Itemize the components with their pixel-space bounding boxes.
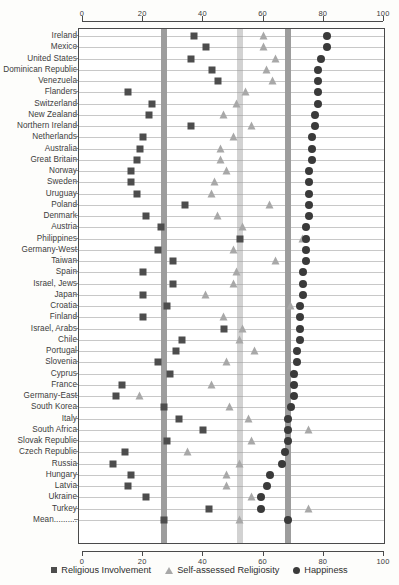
gridline — [79, 261, 384, 262]
data-point-self-assessed-religiosity — [220, 313, 228, 321]
legend-item[interactable]: Happiness — [293, 565, 347, 575]
category-label-philippines: Philippines — [37, 233, 77, 242]
gridline — [79, 227, 384, 228]
data-point-happiness — [311, 122, 319, 130]
data-point-religious-involvement — [134, 190, 141, 197]
data-point-self-assessed-religiosity — [223, 167, 231, 175]
data-point-religious-involvement — [125, 483, 132, 490]
axis-tick-label: 100 — [376, 9, 389, 18]
category-tick — [74, 384, 78, 385]
data-point-religious-involvement — [128, 471, 135, 478]
data-point-self-assessed-religiosity — [259, 43, 267, 51]
data-point-happiness — [278, 460, 286, 468]
category-tick — [74, 463, 78, 464]
data-point-religious-involvement — [164, 303, 171, 310]
data-point-self-assessed-religiosity — [235, 335, 243, 343]
gridline — [79, 171, 384, 172]
plot-area — [78, 28, 385, 544]
data-point-self-assessed-religiosity — [223, 482, 231, 490]
data-point-self-assessed-religiosity — [232, 268, 240, 276]
axis-tick — [323, 551, 324, 556]
data-point-happiness — [302, 246, 310, 254]
data-point-religious-involvement — [122, 449, 129, 456]
category-label-czech-republic: Czech Republic — [19, 447, 77, 456]
category-tick — [74, 226, 78, 227]
data-point-religious-involvement — [167, 370, 174, 377]
gridline — [79, 509, 384, 510]
data-point-self-assessed-religiosity — [262, 65, 270, 73]
category-tick — [74, 474, 78, 475]
category-label-croatia: Croatia — [50, 301, 77, 310]
category-tick — [74, 69, 78, 70]
category-label-switzerland: Switzerland — [34, 98, 77, 107]
gridline — [79, 239, 384, 240]
chart-root: 020406080100 IrelandMexicoUnited StatesD… — [0, 0, 399, 585]
data-point-religious-involvement — [128, 168, 135, 175]
data-point-religious-involvement — [140, 314, 147, 321]
category-tick — [74, 451, 78, 452]
data-point-happiness — [284, 415, 292, 423]
category-tick — [74, 316, 78, 317]
gridline — [79, 81, 384, 82]
data-point-self-assessed-religiosity — [235, 459, 243, 467]
data-point-religious-involvement — [221, 325, 228, 332]
gridline — [79, 126, 384, 127]
category-tick — [74, 485, 78, 486]
data-point-self-assessed-religiosity — [184, 448, 192, 456]
gridline — [79, 329, 384, 330]
legend-label: Happiness — [304, 565, 347, 575]
data-point-religious-involvement — [170, 280, 177, 287]
category-label-ukraine: Ukraine — [48, 492, 77, 501]
data-point-self-assessed-religiosity — [235, 516, 243, 524]
category-tick — [74, 215, 78, 216]
category-tick — [74, 181, 78, 182]
data-point-happiness — [314, 100, 322, 108]
category-tick — [74, 361, 78, 362]
data-point-religious-involvement — [110, 460, 117, 467]
data-point-happiness — [257, 505, 265, 513]
category-label-germany-east: Germany-East — [24, 391, 77, 400]
category-tick — [74, 395, 78, 396]
data-point-religious-involvement — [140, 291, 147, 298]
axis-line — [82, 21, 383, 22]
category-label-mean: Mean.......... — [33, 515, 77, 524]
data-point-self-assessed-religiosity — [247, 493, 255, 501]
category-tick — [74, 35, 78, 36]
data-point-self-assessed-religiosity — [304, 504, 312, 512]
legend-label: Self-assessed Religiosity — [177, 565, 279, 575]
data-point-religious-involvement — [146, 111, 153, 118]
legend-item[interactable]: Religious Involvement — [51, 565, 151, 575]
data-point-self-assessed-religiosity — [244, 414, 252, 422]
axis-tick — [142, 551, 143, 556]
data-point-happiness — [257, 493, 265, 501]
circle-marker-icon — [293, 567, 300, 574]
data-point-happiness — [290, 381, 298, 389]
data-point-religious-involvement — [161, 404, 168, 411]
data-point-happiness — [302, 223, 310, 231]
category-label-united-states: United States — [27, 53, 77, 62]
data-point-religious-involvement — [182, 201, 189, 208]
data-point-happiness — [305, 212, 313, 220]
gridline — [79, 149, 384, 150]
data-point-happiness — [308, 145, 316, 153]
data-point-happiness — [305, 190, 313, 198]
category-label-great-britain: Great Britain — [30, 154, 77, 163]
legend-item[interactable]: Self-assessed Religiosity — [165, 565, 279, 575]
data-point-self-assessed-religiosity — [223, 470, 231, 478]
category-tick — [74, 46, 78, 47]
data-point-self-assessed-religiosity — [226, 403, 234, 411]
data-point-self-assessed-religiosity — [304, 425, 312, 433]
data-point-religious-involvement — [155, 359, 162, 366]
gridline — [79, 59, 384, 60]
data-point-religious-involvement — [149, 100, 156, 107]
gridline — [79, 70, 384, 71]
category-label-germany-west: Germany-West — [22, 244, 78, 253]
data-point-happiness — [314, 77, 322, 85]
category-tick — [74, 519, 78, 520]
data-point-religious-involvement — [140, 134, 147, 141]
category-label-finland: Finland — [50, 312, 77, 321]
category-tick — [74, 136, 78, 137]
reference-band-mean-religious-involvement — [161, 29, 167, 543]
data-point-self-assessed-religiosity — [229, 245, 237, 253]
legend-label: Religious Involvement — [61, 565, 151, 575]
